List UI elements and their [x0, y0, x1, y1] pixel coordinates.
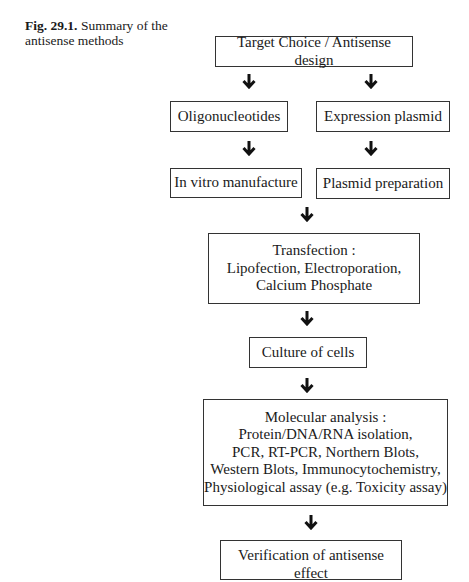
expression-plasmid-label: Expression plasmid: [324, 108, 442, 126]
arrow-down-icon: [242, 140, 256, 156]
arrow-down-icon: [364, 140, 378, 156]
oligonucleotides-label: Oligonucleotides: [178, 108, 280, 126]
transfection-title: Transfection :: [272, 242, 355, 260]
culture-of-cells-label: Culture of cells: [262, 344, 354, 362]
verification-box: Verification of antisense effect: [220, 540, 402, 580]
verification-label: Verification of antisense effect: [221, 547, 401, 582]
plasmid-preparation-box: Plasmid preparation: [316, 168, 450, 199]
arrow-down-icon: [300, 377, 314, 393]
culture-of-cells-box: Culture of cells: [249, 337, 367, 368]
expression-plasmid-box: Expression plasmid: [316, 101, 450, 132]
transfection-methods-line2: Calcium Phosphate: [256, 277, 372, 295]
arrow-down-icon: [242, 73, 256, 89]
molecular-analysis-title: Molecular analysis :: [265, 409, 387, 427]
transfection-box: Transfection : Lipofection, Electroporat…: [208, 233, 420, 304]
in-vitro-manufacture-label: In vitro manufacture: [174, 174, 297, 192]
plasmid-preparation-label: Plasmid preparation: [323, 175, 443, 193]
molecular-analysis-box: Molecular analysis : Protein/DNA/RNA iso…: [203, 399, 448, 506]
figure-label: Fig. 29.1.: [25, 18, 78, 33]
arrow-down-icon: [300, 206, 314, 222]
molecular-analysis-line4: Physiological assay (e.g. Toxicity assay…: [204, 479, 447, 497]
target-choice-label: Target Choice / Antisense design: [216, 34, 412, 69]
arrow-down-icon: [304, 514, 318, 530]
molecular-analysis-line2: PCR, RT-PCR, Northern Blots,: [232, 444, 419, 462]
in-vitro-manufacture-box: In vitro manufacture: [170, 168, 302, 198]
figure-caption: Fig. 29.1. Summary of the antisense meth…: [25, 18, 195, 48]
oligonucleotides-box: Oligonucleotides: [170, 101, 288, 132]
arrow-down-icon: [300, 310, 314, 326]
arrow-down-icon: [364, 73, 378, 89]
target-choice-box: Target Choice / Antisense design: [215, 36, 413, 67]
transfection-methods-line1: Lipofection, Electroporation,: [227, 260, 402, 278]
molecular-analysis-line1: Protein/DNA/RNA isolation,: [238, 426, 412, 444]
molecular-analysis-line3: Western Blots, Immunocytochemistry,: [210, 461, 440, 479]
